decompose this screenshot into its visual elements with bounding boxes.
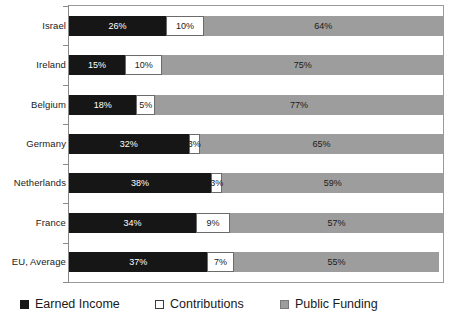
bar-segment-contributions: 7% (207, 252, 233, 272)
bar-value-label: 77% (290, 100, 308, 110)
bar-value-label: 9% (206, 218, 219, 228)
bar-segment-public-funding: 64% (204, 16, 443, 36)
bar-segment-public-funding: 75% (162, 55, 443, 75)
bar-segment-public-funding: 57% (230, 213, 443, 233)
category-label-germany: Germany (0, 134, 66, 154)
bar-row: 34%9%57% (69, 213, 443, 233)
bar-segment-public-funding: 65% (200, 134, 443, 154)
bar-segment-public-funding: 59% (222, 173, 443, 193)
legend-item-earned-income[interactable]: Earned Income (20, 293, 120, 315)
bar-value-label: 59% (324, 178, 342, 188)
legend-label: Contributions (170, 297, 244, 311)
axis-tick (63, 282, 68, 283)
bar-row: 37%7%55% (69, 252, 443, 272)
bar-row: 26%10%64% (69, 16, 443, 36)
bar-segment-contributions: 5% (136, 95, 155, 115)
bar-segment-earned-income: 38% (69, 173, 211, 193)
bar-value-label: 3% (210, 178, 223, 188)
category-label-ireland: Ireland (0, 55, 66, 75)
bar-segment-contributions: 3% (189, 134, 200, 154)
bar-value-label: 38% (131, 178, 149, 188)
category-label-belgium: Belgium (0, 95, 66, 115)
bar-value-label: 10% (176, 21, 194, 31)
bar-value-label: 26% (109, 21, 127, 31)
bar-value-label: 37% (129, 257, 147, 267)
bar-segment-earned-income: 37% (69, 252, 207, 272)
bar-value-label: 65% (312, 139, 330, 149)
axis-tick (63, 243, 68, 244)
bar-segment-public-funding: 55% (234, 252, 440, 272)
legend-label: Public Funding (295, 297, 378, 311)
bar-value-label: 18% (94, 100, 112, 110)
category-label-eu-average: EU, Average (0, 252, 66, 272)
legend-swatch-contributions (155, 300, 164, 309)
bar-value-label: 57% (327, 218, 345, 228)
bar-row: 32%3%65% (69, 134, 443, 154)
bar-value-label: 32% (120, 139, 138, 149)
bar-row: 15%10%75% (69, 55, 443, 75)
bar-segment-earned-income: 18% (69, 95, 136, 115)
bar-row: 38%3%59% (69, 173, 443, 193)
legend-swatch-public-funding (280, 300, 289, 309)
bars-container: 26%10%64%15%10%75%18%5%77%32%3%65%38%3%5… (69, 6, 443, 282)
bar-segment-contributions: 9% (196, 213, 230, 233)
axis-tick (63, 45, 68, 46)
bar-value-label: 7% (214, 257, 227, 267)
chart-legend: Earned IncomeContributionsPublic Funding (0, 293, 450, 315)
bar-row: 18%5%77% (69, 95, 443, 115)
legend-item-public-funding[interactable]: Public Funding (280, 293, 378, 315)
bar-segment-earned-income: 34% (69, 213, 196, 233)
bar-segment-contributions: 10% (125, 55, 162, 75)
bar-value-label: 75% (294, 60, 312, 70)
bar-value-label: 5% (139, 100, 152, 110)
axis-tick (63, 203, 68, 204)
legend-swatch-earned-income (20, 300, 29, 309)
bar-value-label: 34% (124, 218, 142, 228)
stacked-bar-chart: IsraelIrelandBelgiumGermanyNetherlandsFr… (0, 0, 450, 321)
bar-segment-contributions: 3% (211, 173, 222, 193)
axis-tick (63, 85, 68, 86)
bar-segment-earned-income: 32% (69, 134, 189, 154)
legend-label: Earned Income (35, 297, 120, 311)
bar-value-label: 10% (135, 60, 153, 70)
bar-value-label: 3% (188, 139, 201, 149)
bar-value-label: 64% (314, 21, 332, 31)
bar-segment-contributions: 10% (166, 16, 203, 36)
category-label-israel: Israel (0, 16, 66, 36)
category-label-netherlands: Netherlands (0, 173, 66, 193)
axis-tick (63, 164, 68, 165)
axis-tick (63, 124, 68, 125)
category-label-france: France (0, 213, 66, 233)
legend-item-contributions[interactable]: Contributions (155, 293, 244, 315)
category-axis-labels: IsraelIrelandBelgiumGermanyNetherlandsFr… (0, 5, 66, 283)
bar-value-label: 15% (88, 60, 106, 70)
bar-segment-earned-income: 26% (69, 16, 166, 36)
axis-tick (63, 6, 68, 7)
bar-segment-earned-income: 15% (69, 55, 125, 75)
bar-segment-public-funding: 77% (155, 95, 443, 115)
bar-value-label: 55% (327, 257, 345, 267)
